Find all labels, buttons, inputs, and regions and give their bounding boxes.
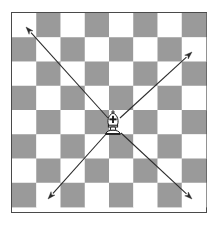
board-square bbox=[61, 37, 86, 62]
board-square bbox=[36, 110, 61, 135]
board-square bbox=[36, 159, 61, 184]
board-square bbox=[12, 183, 37, 208]
board-square bbox=[61, 183, 86, 208]
board-square bbox=[85, 110, 110, 135]
board-square bbox=[109, 134, 134, 159]
board-square bbox=[85, 159, 110, 184]
board-square bbox=[36, 62, 61, 87]
board-square bbox=[158, 62, 183, 87]
board-square bbox=[36, 13, 61, 38]
board-square bbox=[158, 134, 183, 159]
board-square bbox=[36, 86, 61, 111]
board-square bbox=[109, 159, 134, 184]
board-square bbox=[182, 183, 207, 208]
board-square bbox=[61, 13, 86, 38]
board-square bbox=[182, 86, 207, 111]
board-square bbox=[182, 110, 207, 135]
board-square bbox=[36, 134, 61, 159]
board-square bbox=[85, 183, 110, 208]
board-square bbox=[12, 62, 37, 87]
board-square bbox=[109, 13, 134, 38]
board-square bbox=[182, 134, 207, 159]
board-square bbox=[133, 13, 158, 38]
board-square bbox=[12, 86, 37, 111]
board-square bbox=[36, 37, 61, 62]
board-square bbox=[158, 37, 183, 62]
board-square bbox=[12, 159, 37, 184]
board-square bbox=[133, 159, 158, 184]
board-square bbox=[182, 13, 207, 38]
board-square bbox=[61, 134, 86, 159]
board-square bbox=[133, 37, 158, 62]
board-square bbox=[109, 183, 134, 208]
board-square bbox=[133, 110, 158, 135]
chessboard-graphic bbox=[0, 0, 219, 228]
board-square bbox=[12, 37, 37, 62]
board-square bbox=[133, 183, 158, 208]
bishop-cross bbox=[112, 116, 114, 123]
chessboard-squares bbox=[12, 13, 206, 207]
board-square bbox=[109, 37, 134, 62]
board-square bbox=[109, 62, 134, 87]
board-square bbox=[109, 86, 134, 111]
bishop-base bbox=[106, 130, 120, 133]
board-square bbox=[133, 62, 158, 87]
board-square bbox=[133, 86, 158, 111]
board-square bbox=[85, 86, 110, 111]
board-square bbox=[85, 62, 110, 87]
figure-canvas: Chessboard with bishop movement diagram bbox=[0, 0, 219, 228]
board-square bbox=[36, 183, 61, 208]
board-square bbox=[158, 13, 183, 38]
board-square bbox=[158, 86, 183, 111]
bishop-foot bbox=[105, 133, 120, 135]
board-square bbox=[85, 37, 110, 62]
board-square bbox=[12, 134, 37, 159]
board-square bbox=[61, 110, 86, 135]
board-square bbox=[182, 159, 207, 184]
board-square bbox=[12, 110, 37, 135]
board-square bbox=[85, 134, 110, 159]
board-square bbox=[85, 13, 110, 38]
board-square bbox=[61, 86, 86, 111]
board-square bbox=[182, 62, 207, 87]
board-square bbox=[158, 110, 183, 135]
board-square bbox=[61, 62, 86, 87]
